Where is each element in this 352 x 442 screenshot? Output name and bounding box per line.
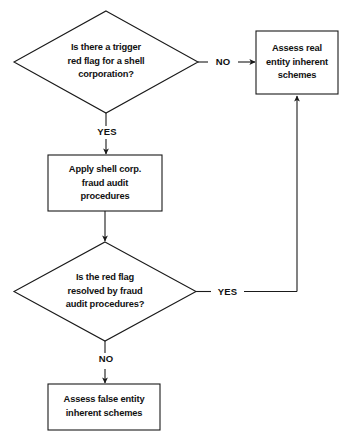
decision-red-flag-resolved-shape — [14, 242, 196, 341]
terminal-assess-real-entity-shape — [256, 31, 338, 94]
process-apply-shell-corp-procedures-shape — [48, 155, 162, 211]
flowchart-vector-layer — [0, 0, 352, 442]
decision-trigger-red-flag-shape — [14, 11, 198, 113]
edge-resolved-yes-label: YES — [211, 286, 244, 297]
terminal-assess-false-entity-shape — [48, 384, 160, 430]
edge-trigger-yes-label: YES — [90, 126, 124, 137]
flowchart-canvas: Is there a trigger red flag for a shell … — [0, 0, 352, 442]
edge-trigger-no-label: NO — [208, 56, 238, 67]
edge-resolved-no-label: NO — [91, 353, 121, 364]
